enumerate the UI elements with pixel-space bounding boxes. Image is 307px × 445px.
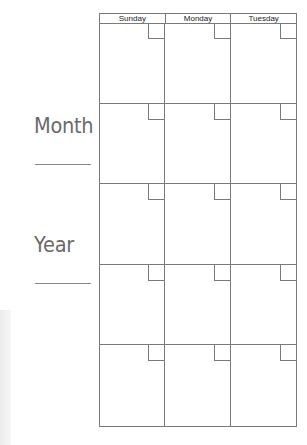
- calendar-grid: Sunday Monday Tuesday: [99, 13, 297, 427]
- day-header-monday: Monday: [166, 14, 232, 23]
- date-box[interactable]: [148, 104, 164, 120]
- day-cell[interactable]: [165, 345, 230, 426]
- date-box[interactable]: [214, 104, 230, 120]
- day-cell[interactable]: [231, 104, 296, 185]
- year-write-line: [35, 283, 91, 284]
- date-box[interactable]: [148, 265, 164, 281]
- month-write-line: [35, 164, 91, 165]
- month-label: Month: [34, 113, 93, 138]
- date-box[interactable]: [214, 23, 230, 39]
- date-box[interactable]: [214, 265, 230, 281]
- date-box[interactable]: [280, 104, 296, 120]
- day-cell[interactable]: [100, 265, 165, 346]
- date-box[interactable]: [148, 23, 164, 39]
- day-cell[interactable]: [165, 104, 230, 185]
- day-cell[interactable]: [231, 265, 296, 346]
- day-cell[interactable]: [100, 345, 165, 426]
- date-box[interactable]: [280, 23, 296, 39]
- date-box[interactable]: [214, 345, 230, 361]
- date-box[interactable]: [214, 184, 230, 200]
- date-box[interactable]: [280, 184, 296, 200]
- calendar-weeks: [100, 23, 296, 426]
- day-cell[interactable]: [100, 23, 165, 104]
- day-cell[interactable]: [165, 265, 230, 346]
- date-box[interactable]: [280, 345, 296, 361]
- date-box[interactable]: [280, 265, 296, 281]
- day-cell[interactable]: [100, 104, 165, 185]
- year-label: Year: [34, 232, 74, 257]
- day-cell[interactable]: [100, 184, 165, 265]
- day-header-tuesday: Tuesday: [231, 14, 296, 23]
- day-cell[interactable]: [231, 345, 296, 426]
- side-shade-decoration: [0, 310, 11, 445]
- date-box[interactable]: [148, 184, 164, 200]
- day-cell[interactable]: [165, 184, 230, 265]
- date-box[interactable]: [148, 345, 164, 361]
- day-cell[interactable]: [231, 184, 296, 265]
- day-cell[interactable]: [231, 23, 296, 104]
- day-cell[interactable]: [165, 23, 230, 104]
- day-header-sunday: Sunday: [100, 14, 166, 23]
